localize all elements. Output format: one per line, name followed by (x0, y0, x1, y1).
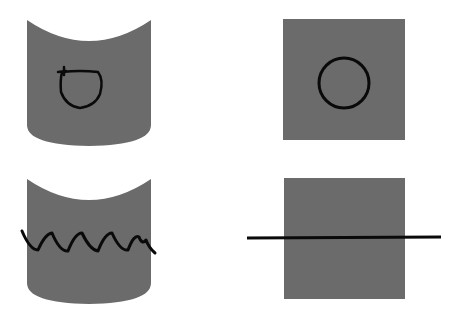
panel-top-right (283, 19, 405, 140)
figure-canvas (0, 0, 460, 320)
cylinder-shape (27, 20, 151, 146)
square-shape (283, 19, 405, 140)
panel-bottom-right (247, 178, 441, 299)
straight-line-mark (247, 237, 441, 238)
panel-bottom-left (22, 179, 155, 304)
panel-top-left (27, 20, 151, 146)
